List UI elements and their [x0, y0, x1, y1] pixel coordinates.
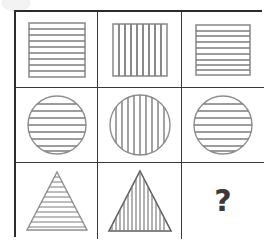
matrix-cell-8[interactable] — [98, 163, 182, 239]
matrix-cell-3[interactable] — [182, 12, 264, 88]
circle-horizontal-hatch-figure — [192, 94, 254, 156]
triangle-horizontal-hatch-figure — [24, 169, 90, 233]
matrix-cell-2[interactable] — [98, 12, 182, 88]
circle-horizontal-hatch-figure — [26, 94, 88, 156]
matrix-cell-4[interactable] — [16, 88, 98, 163]
question-mark-label: ? — [214, 186, 231, 216]
triangle-vertical-hatch-figure — [106, 168, 174, 234]
matrix-cell-9-answer-slot[interactable]: ? — [182, 163, 264, 239]
matrix-cell-6[interactable] — [182, 88, 264, 163]
matrix-cell-7[interactable] — [16, 163, 98, 239]
puzzle-stage: ? — [0, 0, 274, 250]
circle-vertical-hatch-figure — [108, 93, 172, 157]
matrix-grid: ? — [14, 10, 262, 237]
matrix-cell-1[interactable] — [16, 12, 98, 88]
matrix-cell-5[interactable] — [98, 88, 182, 163]
square-horizontal-hatch-figure — [27, 21, 87, 79]
square-vertical-hatch-figure — [111, 22, 169, 78]
square-horizontal-hatch-figure — [194, 23, 252, 77]
